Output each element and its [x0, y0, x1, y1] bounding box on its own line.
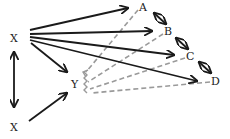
edge-x-a [30, 8, 128, 30]
node-x-bottom: X [10, 121, 18, 134]
solid-edges [14, 8, 211, 121]
edge-b-c [176, 38, 188, 49]
node-d: D [211, 75, 220, 88]
dashed-edge-a-y [86, 10, 138, 72]
edge-x-b [30, 31, 152, 34]
path-diagram: X X Y A B C D [0, 0, 230, 139]
node-a: A [138, 1, 148, 14]
dashed-edge-d-y [92, 82, 210, 93]
node-c: C [186, 50, 194, 63]
node-x-top: X [10, 32, 18, 45]
edge-xbottom-y [29, 93, 67, 121]
dashed-edge-b-y [88, 34, 163, 82]
edge-c-d [199, 62, 211, 73]
edge-x-d [30, 40, 197, 81]
node-b: B [164, 25, 172, 38]
dashed-edge-c-y [90, 58, 185, 89]
node-y: Y [70, 78, 79, 91]
edge-a-b [154, 13, 166, 24]
